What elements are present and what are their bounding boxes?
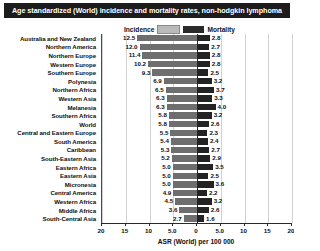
x-tick-label: 5.0 bbox=[215, 227, 224, 234]
incidence-value-label: 9.3 bbox=[142, 70, 151, 76]
mortality-cell: 2.3 bbox=[197, 129, 219, 137]
mortality-value-label: 3.6 bbox=[216, 181, 225, 187]
incidence-bar bbox=[166, 87, 197, 93]
legend-label-mortality: Mortality bbox=[207, 26, 234, 33]
incidence-value-label: 5.5 bbox=[160, 130, 169, 136]
mortality-cell: 3.7 bbox=[197, 86, 225, 94]
incidence-bar bbox=[167, 95, 197, 101]
x-tick-mark bbox=[291, 223, 292, 226]
incidence-bar bbox=[172, 155, 197, 161]
incidence-bar bbox=[167, 104, 197, 110]
category-label: Melanesia bbox=[67, 103, 96, 111]
incidence-bar bbox=[152, 69, 196, 75]
bar-row: 5.42.4 bbox=[102, 137, 291, 145]
bar-row: 6.53.7 bbox=[102, 86, 291, 94]
bar-row: 5.03.5 bbox=[102, 163, 291, 171]
mortality-cell: 1.6 bbox=[197, 215, 215, 223]
mortality-bar bbox=[197, 147, 210, 153]
category-label: Northern Europe bbox=[48, 51, 96, 59]
mortality-bar bbox=[197, 95, 213, 101]
incidence-value-label: 5.0 bbox=[162, 173, 171, 179]
bar-row: 5.52.3 bbox=[102, 129, 291, 137]
incidence-cell: 5.3 bbox=[161, 146, 197, 154]
category-label: Northern America bbox=[46, 43, 96, 51]
mortality-bar bbox=[197, 112, 212, 118]
x-tick-mark bbox=[172, 223, 173, 226]
mortality-cell: 2.8 bbox=[197, 51, 221, 59]
incidence-cell: 5.2 bbox=[161, 154, 196, 162]
mortality-bar bbox=[197, 61, 210, 67]
incidence-cell: 12.5 bbox=[123, 34, 196, 42]
mortality-bar bbox=[197, 121, 209, 127]
mortality-cell: 3.2 bbox=[197, 197, 223, 205]
mortality-value-label: 3.5 bbox=[215, 164, 224, 170]
incidence-value-label: 5.8 bbox=[158, 112, 167, 118]
incidence-cell: 5.0 bbox=[162, 172, 196, 180]
legend-swatch-incidence bbox=[157, 25, 180, 34]
plot-area: 12.52.812.02.711.42.810.22.89.32.56.93.2… bbox=[101, 34, 291, 223]
incidence-value-label: 2.7 bbox=[173, 216, 182, 222]
incidence-bar bbox=[169, 112, 197, 118]
x-tick-label: 15 bbox=[121, 227, 128, 234]
bar-row: 5.03.6 bbox=[102, 180, 291, 188]
x-tick-label: 15 bbox=[264, 227, 271, 234]
chart-legend: Incidence Mortality bbox=[124, 24, 235, 34]
category-label: Eastern Africa bbox=[56, 163, 96, 171]
mortality-bar bbox=[197, 35, 210, 41]
mortality-bar bbox=[197, 87, 215, 93]
incidence-cell: 5.8 bbox=[158, 112, 196, 120]
x-tick-label: 5.0 bbox=[168, 227, 177, 234]
mortality-bar bbox=[197, 181, 214, 187]
incidence-bar bbox=[137, 35, 196, 41]
x-tick-mark bbox=[244, 223, 245, 226]
category-label: Australia and New Zealand bbox=[20, 34, 96, 42]
mortality-value-label: 3.7 bbox=[216, 87, 225, 93]
incidence-bar bbox=[175, 198, 196, 204]
mortality-cell: 2.5 bbox=[197, 172, 219, 180]
incidence-value-label: 12.0 bbox=[125, 44, 137, 50]
bar-row: 5.83.2 bbox=[102, 112, 291, 120]
incidence-bar bbox=[169, 121, 197, 127]
mortality-cell: 2.7 bbox=[197, 146, 220, 154]
x-tick-mark bbox=[101, 223, 102, 226]
bar-rows: 12.52.812.02.711.42.810.22.89.32.56.93.2… bbox=[102, 34, 291, 223]
mortality-bar bbox=[197, 44, 210, 50]
bar-row: 12.52.8 bbox=[102, 34, 291, 42]
category-label: Southern Europe bbox=[47, 69, 96, 77]
mortality-bar bbox=[197, 69, 209, 75]
mortality-bar bbox=[197, 190, 207, 196]
incidence-bar bbox=[179, 207, 196, 213]
bar-row: 4.53.2 bbox=[102, 197, 291, 205]
mortality-value-label: 2.8 bbox=[212, 52, 221, 58]
mortality-value-label: 3.2 bbox=[214, 78, 223, 84]
incidence-value-label: 6.3 bbox=[156, 104, 165, 110]
x-tick-mark bbox=[149, 223, 150, 226]
mortality-bar bbox=[197, 198, 212, 204]
incidence-cell: 4.9 bbox=[163, 189, 197, 197]
category-label: Eastern Asia bbox=[60, 172, 96, 180]
incidence-cell: 6.5 bbox=[155, 86, 196, 94]
mortality-bar bbox=[197, 78, 212, 84]
mortality-cell: 3.2 bbox=[197, 112, 223, 120]
mortality-cell: 2.8 bbox=[197, 60, 221, 68]
mortality-bar bbox=[197, 130, 208, 136]
legend-swatch-mortality bbox=[183, 26, 204, 33]
incidence-bar bbox=[142, 52, 196, 58]
incidence-bar bbox=[173, 181, 197, 187]
x-tick-label: 10 bbox=[145, 227, 152, 234]
mortality-value-label: 2.6 bbox=[211, 121, 220, 127]
bar-row: 3.62.6 bbox=[102, 206, 291, 214]
category-label: Central America bbox=[50, 189, 96, 197]
mortality-value-label: 2.9 bbox=[212, 155, 221, 161]
incidence-value-label: 5.2 bbox=[161, 155, 170, 161]
mortality-value-label: 3.3 bbox=[214, 95, 223, 101]
mortality-value-label: 3.2 bbox=[214, 112, 223, 118]
incidence-bar bbox=[173, 173, 197, 179]
mortality-value-label: 2.7 bbox=[211, 147, 220, 153]
incidence-cell: 5.4 bbox=[160, 137, 196, 145]
mortality-cell: 3.5 bbox=[197, 163, 224, 171]
mortality-bar bbox=[197, 207, 209, 213]
incidence-value-label: 6.9 bbox=[153, 78, 162, 84]
mortality-cell: 2.7 bbox=[197, 43, 220, 51]
incidence-cell: 11.4 bbox=[129, 51, 197, 59]
